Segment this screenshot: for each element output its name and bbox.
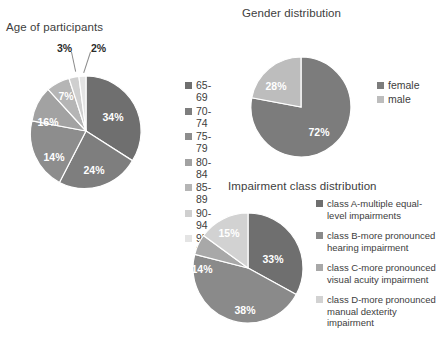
- gender-chart-legend: female male: [377, 79, 420, 107]
- age-pie-svg: 34% 24% 14% 16% 7%: [30, 75, 144, 189]
- gender-value-male: 28%: [265, 80, 287, 92]
- gender-value-female: 72%: [308, 126, 330, 138]
- impairment-value-class-d: 15%: [218, 227, 240, 239]
- age-value-80-84: 16%: [37, 116, 59, 128]
- legend-item-label: 80-84: [196, 156, 211, 180]
- legend-item[interactable]: 65-69: [185, 79, 211, 103]
- legend-item[interactable]: 75-79: [185, 130, 211, 154]
- age-leader-line-95-99: [83, 52, 91, 73]
- legend-swatch-icon: [185, 210, 192, 217]
- legend-item-label: 70-74: [196, 105, 211, 129]
- legend-swatch-icon: [316, 200, 323, 207]
- legend-item[interactable]: 85-89: [185, 181, 211, 205]
- legend-swatch-icon: [185, 235, 192, 242]
- age-value-65-69: 34%: [102, 111, 124, 123]
- legend-swatch-icon: [185, 133, 192, 140]
- gender-pie-chart: 72% 28%: [250, 56, 352, 158]
- age-value-95-99: 2%: [91, 42, 106, 54]
- legend-swatch-icon: [316, 264, 323, 271]
- legend-item-label: 85-89: [196, 181, 211, 205]
- legend-item-label: 75-79: [196, 130, 211, 154]
- age-value-85-89: 7%: [58, 90, 74, 102]
- age-leader-line-90-94: [71, 52, 76, 72]
- legend-item[interactable]: class C-more pronounced visual acuity im…: [316, 262, 439, 285]
- legend-item-label: class B-more pronounced hearing impairme…: [327, 230, 439, 253]
- legend-item-label: class C-more pronounced visual acuity im…: [327, 262, 439, 285]
- legend-item[interactable]: 70-74: [185, 105, 211, 129]
- impairment-chart-legend: class A-multiple equal-level impairments…: [316, 198, 439, 338]
- legend-swatch-icon: [377, 96, 384, 103]
- impairment-value-class-b: 38%: [234, 304, 256, 316]
- legend-swatch-icon: [377, 82, 384, 89]
- legend-swatch-icon: [316, 232, 323, 239]
- legend-swatch-icon: [316, 296, 323, 303]
- age-value-70-74: 24%: [83, 164, 105, 176]
- legend-swatch-icon: [185, 159, 192, 166]
- legend-item[interactable]: class D-more pronounced manual dexterity…: [316, 294, 439, 329]
- legend-item[interactable]: class B-more pronounced hearing impairme…: [316, 230, 439, 253]
- legend-item[interactable]: 80-84: [185, 156, 211, 180]
- legend-item[interactable]: class A-multiple equal-level impairments: [316, 198, 439, 221]
- impairment-value-class-c: 14%: [192, 263, 213, 275]
- impairment-pie-chart: 33% 38% 14% 15%: [192, 212, 306, 326]
- age-pie-chart: 34% 24% 14% 16% 7%: [30, 75, 144, 189]
- legend-swatch-icon: [185, 184, 192, 191]
- impairment-value-class-a: 33%: [262, 253, 284, 265]
- gender-pie-svg: 72% 28%: [250, 56, 352, 158]
- gender-chart-title: Gender distribution: [242, 7, 341, 19]
- legend-swatch-icon: [185, 108, 192, 115]
- impairment-chart-title: Impairment class distribution: [228, 180, 377, 192]
- age-value-75-79: 14%: [43, 151, 65, 163]
- legend-swatch-icon: [185, 82, 192, 89]
- legend-item-label: class D-more pronounced manual dexterity…: [327, 294, 439, 329]
- legend-item[interactable]: male: [377, 93, 420, 105]
- age-chart-title: Age of participants: [6, 21, 103, 33]
- legend-item-label: female: [388, 79, 420, 91]
- legend-item[interactable]: female: [377, 79, 420, 91]
- impairment-pie-svg: 33% 38% 14% 15%: [192, 212, 306, 326]
- legend-item-label: class A-multiple equal-level impairments: [327, 198, 439, 221]
- age-value-90-94: 3%: [57, 42, 72, 54]
- legend-item-label: male: [388, 93, 411, 105]
- legend-item-label: 65-69: [196, 79, 211, 103]
